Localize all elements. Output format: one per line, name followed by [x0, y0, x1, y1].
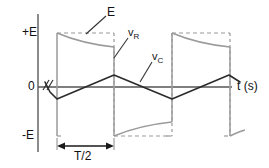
vr-waveform	[57, 33, 245, 136]
vc-label: vC	[152, 51, 163, 66]
vr-leader-line	[114, 38, 128, 58]
x-axis-label: t (s)	[237, 81, 258, 92]
vc-label-subscript: C	[158, 56, 164, 65]
source-square-wave-E	[57, 33, 230, 136]
y-axis-label-negative-e: -E	[22, 130, 34, 141]
e-leader-line	[86, 16, 106, 34]
half-period-arrow-right-head	[106, 143, 114, 150]
vr-label: vR	[128, 27, 139, 42]
half-period-arrow-left-head	[57, 143, 65, 150]
y-axis-label-positive-e: +E	[22, 27, 37, 38]
y-axis-label-zero: 0	[28, 81, 35, 92]
vr-label-subscript: R	[134, 32, 140, 41]
source-label-e: E	[107, 7, 115, 18]
waveform-svg	[0, 0, 269, 168]
vc-leader-line	[140, 62, 152, 82]
half-period-label: T/2	[74, 151, 91, 162]
waveform-figure: +E 0 -E t (s) E vR vC T/2	[0, 0, 269, 168]
